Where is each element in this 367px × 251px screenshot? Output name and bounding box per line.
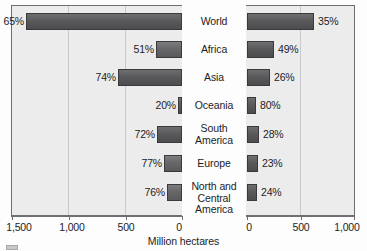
category-label-world: World bbox=[182, 16, 246, 28]
tick-right-0 bbox=[247, 216, 248, 220]
data-label-left-oceania: 20% bbox=[148, 99, 176, 111]
bar-right-north-central-america bbox=[247, 184, 257, 201]
ticklabel-right-500: 500 bbox=[293, 221, 310, 233]
gridline-left-500 bbox=[125, 6, 126, 215]
left-axis-line bbox=[11, 216, 182, 217]
category-line: North and bbox=[182, 181, 246, 193]
data-label-left-africa: 51% bbox=[126, 43, 154, 55]
category-label-asia: Asia bbox=[182, 72, 246, 84]
category-label-africa: Africa bbox=[182, 44, 246, 56]
bar-right-south-america bbox=[247, 126, 259, 143]
category-line: Oceania bbox=[182, 100, 246, 112]
data-label-right-south-america: 28% bbox=[263, 128, 283, 140]
bar-right-asia bbox=[247, 69, 270, 86]
axis-title: Million hectares bbox=[0, 235, 367, 247]
ticklabel-left-500: 500 bbox=[118, 221, 135, 233]
tick-right-500 bbox=[301, 216, 302, 220]
data-label-right-world: 35% bbox=[318, 15, 338, 27]
data-label-right-oceania: 80% bbox=[260, 99, 280, 111]
ticklabel-right-1000: 1,000 bbox=[334, 221, 359, 233]
ticklabel-left-1000: 1,000 bbox=[59, 221, 84, 233]
category-label-north-central-america: North and Central America bbox=[182, 181, 246, 216]
bar-right-oceania bbox=[247, 97, 256, 114]
bar-right-world bbox=[247, 13, 314, 30]
tick-left-1500 bbox=[12, 216, 13, 220]
data-label-right-north-central-america: 24% bbox=[261, 186, 281, 198]
category-line: Europe bbox=[182, 158, 246, 170]
bar-left-europe bbox=[164, 155, 182, 172]
category-label-europe: Europe bbox=[182, 158, 246, 170]
tick-right-1000 bbox=[354, 216, 355, 220]
bar-left-north-central-america bbox=[167, 184, 182, 201]
category-label-oceania: Oceania bbox=[182, 100, 246, 112]
category-line: South bbox=[182, 123, 246, 135]
gridline-left-1000 bbox=[68, 6, 69, 215]
category-label-south-america: South America bbox=[182, 123, 246, 146]
ticklabel-right-0: 0 bbox=[246, 221, 252, 233]
tick-left-1000 bbox=[69, 216, 70, 220]
legend-swatch-icon bbox=[6, 245, 18, 250]
bar-left-africa bbox=[156, 41, 182, 58]
category-line: America bbox=[182, 204, 246, 216]
data-label-right-europe: 23% bbox=[262, 157, 282, 169]
gridline-right-500 bbox=[300, 6, 301, 215]
data-label-right-africa: 49% bbox=[278, 43, 298, 55]
data-label-left-world: 65% bbox=[0, 15, 24, 27]
data-label-right-asia: 26% bbox=[274, 71, 294, 83]
bar-left-asia bbox=[118, 69, 182, 86]
ticklabel-left-1500: 1,500 bbox=[6, 221, 31, 233]
bar-left-south-america bbox=[157, 126, 182, 143]
data-label-left-south-america: 72% bbox=[127, 128, 155, 140]
data-label-left-asia: 74% bbox=[88, 71, 116, 83]
diverging-bar-chart: 65% 51% 74% 20% 72% 77% 76% 35% 49% 26% … bbox=[0, 0, 367, 251]
bar-left-world bbox=[26, 13, 182, 30]
category-line: America bbox=[182, 135, 246, 147]
bar-right-africa bbox=[247, 41, 274, 58]
category-line: Asia bbox=[182, 72, 246, 84]
tick-left-0 bbox=[182, 216, 183, 220]
bar-right-europe bbox=[247, 155, 258, 172]
tick-left-500 bbox=[126, 216, 127, 220]
data-label-left-north-central-america: 76% bbox=[137, 186, 165, 198]
category-line: World bbox=[182, 16, 246, 28]
category-line: Africa bbox=[182, 44, 246, 56]
ticklabel-left-0: 0 bbox=[176, 221, 182, 233]
data-label-left-europe: 77% bbox=[134, 157, 162, 169]
